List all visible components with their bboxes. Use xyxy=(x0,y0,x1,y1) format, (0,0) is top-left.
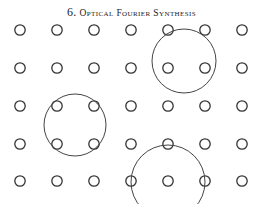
lattice-point xyxy=(89,25,99,35)
lattice-point xyxy=(52,176,62,186)
lattice-point xyxy=(52,25,62,35)
lattice-point xyxy=(237,25,247,35)
lattice-point xyxy=(126,101,136,111)
lattice-point xyxy=(15,139,25,149)
lattice-point xyxy=(89,63,99,73)
lattice-point xyxy=(126,25,136,35)
lattice-point xyxy=(237,101,247,111)
lattice-point xyxy=(52,63,62,73)
lattice-point xyxy=(89,101,99,111)
lattice-point xyxy=(163,63,173,73)
lattice-point xyxy=(200,63,210,73)
lattice-point xyxy=(237,63,247,73)
upper-right-aperture-circle xyxy=(152,29,216,93)
lattice-point xyxy=(15,176,25,186)
lattice-point xyxy=(200,139,210,149)
lattice-point xyxy=(126,63,136,73)
lattice-point xyxy=(15,25,25,35)
lattice-diagram xyxy=(0,0,263,204)
lattice-point xyxy=(89,176,99,186)
lattice-point xyxy=(15,101,25,111)
lattice-point xyxy=(163,176,173,186)
lattice-point xyxy=(163,101,173,111)
lattice-point xyxy=(163,139,173,149)
left-aperture-circle xyxy=(44,94,106,156)
bottom-aperture-circle xyxy=(131,145,205,204)
lattice-point xyxy=(15,63,25,73)
lattice-point xyxy=(237,139,247,149)
lattice-point xyxy=(89,139,99,149)
lattice-point xyxy=(200,101,210,111)
lattice-point xyxy=(126,139,136,149)
lattice-point xyxy=(237,176,247,186)
